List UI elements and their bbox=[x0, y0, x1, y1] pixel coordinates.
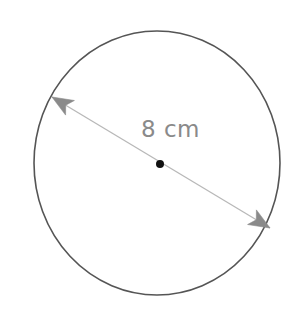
geometry-figure: 8 cm bbox=[0, 0, 304, 311]
arrowhead-start-icon bbox=[52, 97, 74, 115]
dimension-label: 8 cm bbox=[141, 118, 200, 141]
center-dot bbox=[156, 160, 164, 168]
arrowhead-end-icon bbox=[248, 210, 270, 228]
circle-diagram-canvas bbox=[0, 0, 304, 311]
